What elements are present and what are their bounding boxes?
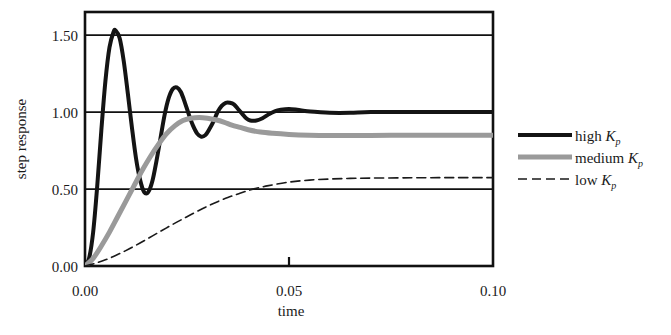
legend-subscript-p: p <box>610 180 616 191</box>
y-axis-title: step response <box>13 98 29 179</box>
x-tick-label-0.10: 0.10 <box>480 283 506 299</box>
legend-subscript-p: p <box>637 158 643 169</box>
x-axis-title: time <box>278 303 305 319</box>
y-tick-label-1.00: 1.00 <box>52 105 78 121</box>
x-tick-label-0.05: 0.05 <box>276 283 302 299</box>
x-tick-label-0.00: 0.00 <box>72 283 98 299</box>
y-tick-label-0.00: 0.00 <box>52 259 78 275</box>
legend-subscript-p: p <box>614 136 620 147</box>
chart-background <box>0 0 671 335</box>
y-tick-label-0.50: 0.50 <box>52 182 78 198</box>
chart-figure: 0.000.501.001.50 0.000.050.10 step respo… <box>0 0 671 335</box>
y-tick-label-1.50: 1.50 <box>52 28 78 44</box>
chart-svg: 0.000.501.001.50 0.000.050.10 step respo… <box>0 0 671 335</box>
